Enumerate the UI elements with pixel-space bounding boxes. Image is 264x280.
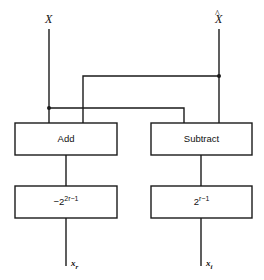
output-xr-subscript: r xyxy=(76,263,79,271)
xhat-to-add-line xyxy=(83,76,219,123)
junction-dot-xhat xyxy=(217,74,221,78)
subtract-label: Subtract xyxy=(151,133,252,144)
block-diagram: X X ^ Add Subtract −22r−1 2r−1 xr xi xyxy=(0,0,264,280)
x-to-subtract-line xyxy=(49,108,184,123)
junction-dot-x xyxy=(47,106,51,110)
scale-real-label: −22r−1 xyxy=(15,195,117,207)
scale-imag-exponent: r−1 xyxy=(199,195,209,202)
scale-real-exponent: 2r−1 xyxy=(64,195,78,202)
scale-imag-label: 2r−1 xyxy=(151,195,252,207)
output-xi-subscript: i xyxy=(211,263,213,271)
input-x-label: X xyxy=(45,12,52,27)
output-xr-label: xr xyxy=(71,258,78,271)
add-label: Add xyxy=(15,133,117,144)
output-xi-label: xi xyxy=(206,258,212,271)
hat-accent: ^ xyxy=(215,8,220,19)
